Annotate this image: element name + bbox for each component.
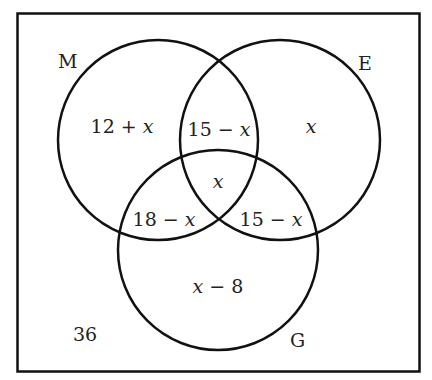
venn-diagram: M E G 12 + x x 15 − x x 18 − x 15 − x x …: [0, 0, 432, 380]
region-outside: 36: [73, 323, 97, 345]
set-label-e: E: [358, 52, 372, 74]
set-label-m: M: [58, 50, 77, 72]
set-label-g: G: [290, 329, 305, 351]
region-center: x: [213, 170, 224, 192]
region-e-only: x: [306, 115, 317, 137]
region-m-and-g: 18 − x: [133, 208, 196, 230]
region-m-only: 12 + x: [91, 115, 154, 137]
region-e-and-g: 15 − x: [240, 208, 303, 230]
region-m-and-e: 15 − x: [188, 118, 251, 140]
region-g-only: x − 8: [193, 275, 244, 297]
